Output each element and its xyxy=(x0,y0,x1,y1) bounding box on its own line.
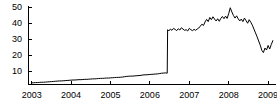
x-tick-label: 2004 xyxy=(53,91,89,100)
data-line-series-1 xyxy=(32,8,273,83)
x-tick-label: 2007 xyxy=(171,91,207,100)
x-tick-label: 2006 xyxy=(132,91,168,100)
y-tick-label: 30 xyxy=(2,35,22,44)
y-tick-label: 10 xyxy=(2,67,22,76)
x-axis-ticks xyxy=(32,81,268,85)
chart-container: 1020304050 2003200420052006200720082009 xyxy=(0,0,277,107)
y-tick-label: 50 xyxy=(2,3,22,12)
x-tick-label: 2009 xyxy=(250,91,277,100)
x-tick-label: 2003 xyxy=(14,91,50,100)
x-tick-label: 2005 xyxy=(92,91,128,100)
axes xyxy=(29,6,277,85)
y-axis-ticks xyxy=(29,7,33,71)
y-tick-label: 40 xyxy=(2,19,22,28)
y-tick-label: 20 xyxy=(2,51,22,60)
x-tick-label: 2008 xyxy=(211,91,247,100)
